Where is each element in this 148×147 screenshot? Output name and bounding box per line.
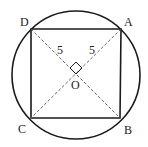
label-d: D — [20, 15, 29, 29]
right-angle-marker — [70, 62, 82, 74]
label-oa-length: 5 — [89, 43, 95, 57]
inscribed-square-diagram: D A B C O 5 5 — [0, 0, 148, 147]
label-o: O — [71, 78, 80, 92]
label-od-length: 5 — [57, 43, 63, 57]
label-a: A — [124, 15, 133, 29]
label-b: B — [124, 123, 132, 137]
label-c: C — [18, 122, 26, 136]
